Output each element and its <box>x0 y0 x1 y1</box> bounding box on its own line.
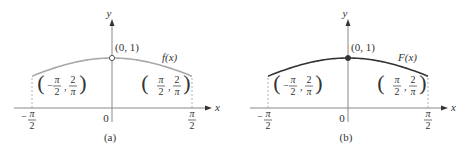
point-label-right-y-frac-numerator: 2 <box>175 74 180 85</box>
tick-label-pi-2-denominator: 2 <box>190 120 195 131</box>
point-label-right-close-paren: ) <box>419 70 426 95</box>
point-label-right: (π2,2π) <box>141 70 190 97</box>
tick-frac-left: π2 <box>28 108 36 131</box>
point-label-0-1: (0, 1) <box>115 41 139 54</box>
point-label-right-x-frac-denominator: 2 <box>395 86 400 97</box>
function-label: F(x) <box>397 51 417 64</box>
tick-label-pi-2: π2 <box>424 108 432 131</box>
point-label-right: (π2,2π) <box>377 70 426 97</box>
y-axis-arrow-icon <box>346 19 351 26</box>
minus-sign: − <box>21 111 27 122</box>
y-axis-label: y <box>342 7 348 19</box>
tick-label-pi-2-denominator: 2 <box>426 120 431 131</box>
point-label-left-open-paren: ( <box>273 70 280 95</box>
point-label-right-y-frac: 2π <box>173 74 181 97</box>
point-label-left-y-frac: 2π <box>69 74 77 97</box>
panel-label: (b) <box>340 131 353 144</box>
point-label-left-close-paren: ) <box>79 70 86 95</box>
point-label-left-x-frac-denominator: 2 <box>291 86 296 97</box>
tick-label-zero: 0 <box>103 112 109 124</box>
tick-frac-left-denominator: 2 <box>266 120 271 131</box>
point-label-right-x-frac-denominator: 2 <box>159 86 164 97</box>
open-point-marker <box>109 55 114 60</box>
x-axis-label: x <box>450 101 456 113</box>
point-label-left-comma: , <box>64 81 67 92</box>
tick-label-neg-pi-2: −π2 <box>21 108 36 131</box>
point-label-right-x-frac: π2 <box>393 74 401 97</box>
point-label-left-y-frac-denominator: π <box>306 86 312 97</box>
function-label: f(x) <box>162 51 178 64</box>
tick-frac-left-numerator: π <box>29 108 35 119</box>
filled-point-marker <box>345 55 350 60</box>
point-label-right-x-frac: π2 <box>157 74 165 97</box>
panel-a: xy(0, 1)f(x)−π20π2(−π2,2π)(π2,2π)(a) <box>14 7 220 144</box>
point-label-right-open-paren: ( <box>141 70 148 95</box>
point-label-right-y-frac-denominator: π <box>174 86 180 97</box>
point-label-right-open-paren: ( <box>377 70 384 95</box>
point-label-left-minus: − <box>47 80 53 91</box>
panel-label: (a) <box>104 131 117 144</box>
point-label-right-comma: , <box>404 81 407 92</box>
point-label-left-minus: − <box>283 80 289 91</box>
tick-label-neg-pi-2: −π2 <box>257 108 272 131</box>
point-label-right-y-frac-denominator: π <box>410 86 416 97</box>
tick-frac-left-numerator: π <box>265 108 271 119</box>
y-axis-label: y <box>106 7 112 19</box>
point-label-left-x-frac: π2 <box>289 74 297 97</box>
x-axis-arrow-icon <box>205 106 212 111</box>
y-axis-arrow-icon <box>110 19 115 26</box>
point-label-left-y-frac: 2π <box>305 74 313 97</box>
point-label-left-close-paren: ) <box>315 70 322 95</box>
point-label-right-comma: , <box>168 81 171 92</box>
point-label-right-x-frac-numerator: π <box>158 74 164 85</box>
point-label-left-y-frac-denominator: π <box>70 86 76 97</box>
tick-label-pi-2-numerator: π <box>425 108 431 119</box>
tick-label-pi-2-numerator: π <box>189 108 195 119</box>
point-label-0-1: (0, 1) <box>351 41 375 54</box>
point-label-left-open-paren: ( <box>37 70 44 95</box>
point-label-left: (−π2,2π) <box>273 70 322 97</box>
tick-frac-left: π2 <box>264 108 272 131</box>
point-label-right-y-frac-numerator: 2 <box>411 74 416 85</box>
point-label-left-x-frac-numerator: π <box>54 74 60 85</box>
x-axis-label: x <box>214 101 220 113</box>
point-label-left-y-frac-numerator: 2 <box>307 74 312 85</box>
tick-frac-left-denominator: 2 <box>30 120 35 131</box>
point-label-left: (−π2,2π) <box>37 70 86 97</box>
point-label-left-x-frac-numerator: π <box>290 74 296 85</box>
point-label-right-close-paren: ) <box>183 70 190 95</box>
point-label-left-y-frac-numerator: 2 <box>71 74 76 85</box>
panel-b: xy(0, 1)F(x)−π20π2(−π2,2π)(π2,2π)(b) <box>250 7 456 144</box>
tick-label-pi-2: π2 <box>188 108 196 131</box>
point-label-left-comma: , <box>300 81 303 92</box>
point-label-right-y-frac: 2π <box>409 74 417 97</box>
point-label-left-x-frac-denominator: 2 <box>55 86 60 97</box>
figure: xy(0, 1)f(x)−π20π2(−π2,2π)(π2,2π)(a)xy(0… <box>0 0 466 149</box>
minus-sign: − <box>257 111 263 122</box>
point-label-left-x-frac: π2 <box>53 74 61 97</box>
point-label-right-x-frac-numerator: π <box>394 74 400 85</box>
tick-label-zero: 0 <box>339 112 345 124</box>
x-axis-arrow-icon <box>441 106 448 111</box>
